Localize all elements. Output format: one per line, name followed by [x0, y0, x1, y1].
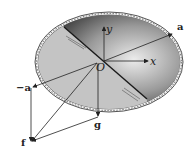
minus-a-label: −a [16, 82, 31, 93]
y-axis-label: y [105, 23, 113, 36]
f-label: f [21, 137, 26, 148]
a-label: a [177, 21, 184, 32]
x-axis-label: x [150, 55, 157, 68]
g-label: g [94, 119, 101, 130]
origin-label: O [96, 61, 105, 74]
fluid-acceleration-diagram: y x O a −a g f [0, 0, 192, 151]
